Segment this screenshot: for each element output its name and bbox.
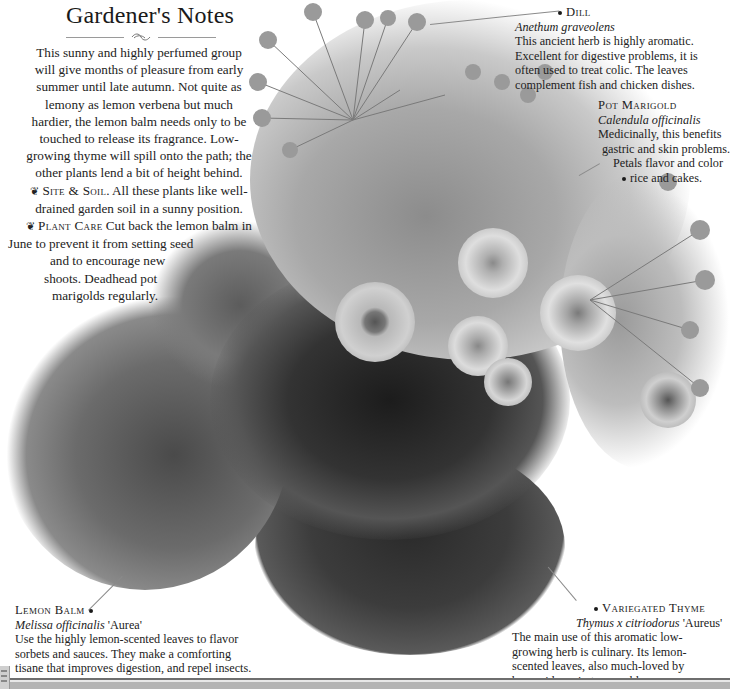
callout-text: rice and cakes. xyxy=(630,171,702,185)
callout-latin: Anethum graveolens xyxy=(515,20,615,34)
intro-line: hardier, the lemon balm needs only to be xyxy=(14,113,264,130)
plant-care-note: ❦Plant Care Cut back the lemon balm in xyxy=(14,217,264,235)
divider-rule-right xyxy=(158,37,216,38)
intro-line: touched to release its fragrance. Low- xyxy=(14,130,264,147)
callout-text: sorbets and sauces. They make a comforti… xyxy=(15,647,251,662)
page-corner-tab-icon xyxy=(0,666,10,689)
callout-text: Petals flavor and color xyxy=(598,156,730,171)
callout-text: Excellent for digestive problems, it is xyxy=(515,49,698,64)
callout-text: growing herb is culinary. Its lemon- xyxy=(512,645,722,660)
plant-care-line: and to encourage new xyxy=(14,252,264,269)
callout-cultivar: 'Aureus' xyxy=(683,616,723,630)
callout-dot-icon xyxy=(89,609,93,613)
callout-name: Dill xyxy=(566,5,591,19)
intro-line: This sunny and highly perfumed group xyxy=(14,44,264,61)
callout-dot-icon xyxy=(622,177,626,181)
callout-dot-icon xyxy=(594,607,598,611)
intro-line: summer until late autumn. Not quite as xyxy=(14,78,264,95)
plant-care-line: June to prevent it from setting seed xyxy=(8,235,264,252)
callout-text: The main use of this aromatic low- xyxy=(512,630,722,645)
variegated-thyme-leader-line xyxy=(548,567,577,601)
callout-text: often used to treat colic. The leaves xyxy=(515,63,698,78)
callout-latin: Calendula officinalis xyxy=(598,113,701,127)
marigold-flower xyxy=(335,282,415,362)
callout-latin: Melissa officinalis xyxy=(15,618,105,632)
plant-care-heading: Plant Care xyxy=(38,218,102,233)
callout-name: Pot Marigold xyxy=(598,98,677,112)
plant-care-line: marigolds regularly. xyxy=(14,287,264,304)
marigold-flower xyxy=(448,316,508,376)
marigold-flower xyxy=(458,228,528,298)
intro-line: lemony as lemon verbena but much xyxy=(14,96,264,113)
marigold-flower xyxy=(484,358,532,406)
leaf-bullet-icon: ❦ xyxy=(30,185,39,197)
callout-name: Variegated Thyme xyxy=(602,601,705,615)
callout-pot-marigold: Pot Marigold Calendula officinalis Medic… xyxy=(598,98,730,186)
site-soil-heading: Site & Soil xyxy=(42,183,106,198)
callout-text: Medicinally, this benefits xyxy=(598,127,730,142)
callout-dot-icon xyxy=(558,11,562,15)
pot-marigold-leader-line xyxy=(579,163,600,176)
callout-text: scented leaves, also much-loved by xyxy=(512,659,722,674)
callout-text: gastric and skin problems. xyxy=(598,142,730,157)
callout-text: tisane that improves digestion, and repe… xyxy=(15,661,251,676)
site-soil-line: drained garden soil in a sunny position. xyxy=(14,200,264,217)
plant-care-line: shoots. Deadhead pot xyxy=(14,270,264,287)
site-soil-note: ❦Site & Soil. All these plants like well… xyxy=(14,182,264,200)
marigold-flower xyxy=(540,275,616,351)
intro-paragraph: This sunny and highly perfumed group wil… xyxy=(14,44,264,304)
site-soil-text: All these plants like well- xyxy=(112,183,248,198)
thyme-foliage xyxy=(255,440,565,655)
callout-latin: Thymus x citriodorus xyxy=(576,616,680,630)
intro-line: other plants lend a bit of height behind… xyxy=(14,164,264,181)
callout-text: complement fish and chicken dishes. xyxy=(515,78,698,93)
central-foliage xyxy=(210,260,570,540)
callout-lemon-balm: Lemon Balm Melissa officinalis 'Aurea' U… xyxy=(15,603,251,676)
callout-name: Lemon Balm xyxy=(15,603,85,617)
intro-line: growing thyme will spill onto the path; … xyxy=(14,147,264,164)
dill-umbels-right xyxy=(560,170,730,470)
callout-variegated-thyme: Variegated Thyme Thymus x citriodorus 'A… xyxy=(560,601,722,689)
title-divider xyxy=(66,33,216,41)
page-title: Gardener's Notes xyxy=(60,0,240,30)
marigold-flower xyxy=(640,372,696,428)
intro-line: will give months of pleasure from early xyxy=(14,61,264,78)
callout-text: Use the highly lemon-scented leaves to f… xyxy=(15,632,251,647)
page-footer-band xyxy=(0,682,730,689)
leaf-bullet-icon: ❦ xyxy=(26,220,35,232)
flourish-ornament-icon xyxy=(130,33,152,41)
lemon-balm-foliage xyxy=(0,290,290,590)
divider-rule-left xyxy=(66,37,124,38)
callout-text: This ancient herb is highly aromatic. xyxy=(515,34,698,49)
callout-cultivar: 'Aurea' xyxy=(108,618,142,632)
callout-dill: Dill Anethum graveolens This ancient her… xyxy=(558,5,698,93)
plant-care-text: Cut back the lemon balm in xyxy=(106,218,252,233)
